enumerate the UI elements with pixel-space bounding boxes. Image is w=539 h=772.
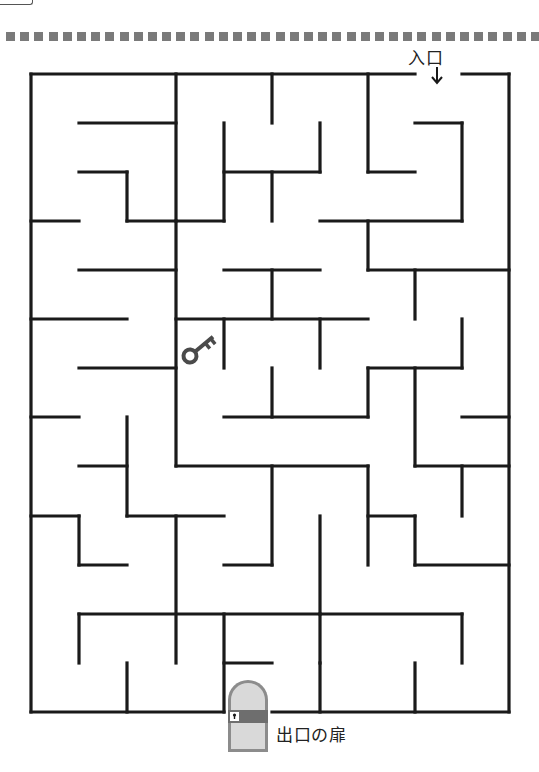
exit-door-icon[interactable] [228,680,268,752]
maze-walls [31,74,509,712]
key-icon[interactable] [181,332,218,366]
maze-board [0,0,539,772]
exit-label: 出口の扉 [276,721,346,746]
